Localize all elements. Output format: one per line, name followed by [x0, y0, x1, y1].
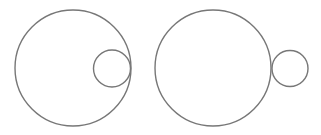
tangent-circles-diagram: [0, 0, 321, 135]
small-circle-outside: [272, 51, 308, 87]
large-circle-left: [15, 10, 131, 126]
small-circle-inside: [94, 50, 131, 87]
figure-internally-tangent: [15, 10, 131, 126]
figure-externally-tangent: [155, 10, 308, 126]
large-circle-right: [155, 10, 271, 126]
